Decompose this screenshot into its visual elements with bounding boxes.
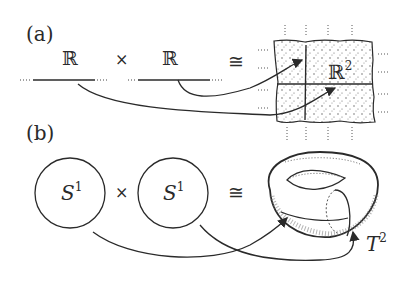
diagram-drawing xyxy=(0,0,413,289)
iso-symbol-a: ≅ xyxy=(228,52,244,71)
s1-right-label: S1 xyxy=(163,181,184,203)
r2-label: ℝ2 xyxy=(328,60,352,82)
plane-r2 xyxy=(258,25,390,140)
t2-label: T2 xyxy=(366,232,387,254)
s1-left-label: S1 xyxy=(61,181,82,203)
times-symbol-a: × xyxy=(115,52,128,68)
arrow-s1-right-to-torus xyxy=(200,225,354,260)
iso-symbol-b: ≅ xyxy=(228,183,244,202)
times-symbol-b: × xyxy=(115,185,128,201)
panel-b-label: (b) xyxy=(26,123,54,143)
panel-a-label: (a) xyxy=(26,24,54,44)
torus-t2 xyxy=(269,152,378,237)
real-right-label: ℝ xyxy=(162,49,178,68)
real-left-label: ℝ xyxy=(62,49,78,68)
